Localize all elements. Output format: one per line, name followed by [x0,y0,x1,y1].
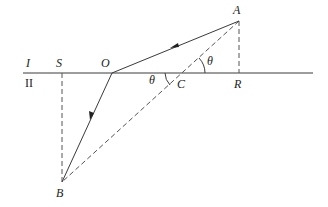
label-B: B [56,186,64,200]
refraction-diagram: A O S I II C R B θ θ [0,0,328,207]
angle-arc-left [165,73,170,85]
label-S: S [56,56,62,70]
label-theta-right: θ [207,54,213,68]
angle-arc-right [199,58,205,73]
dashed-line-AB [62,21,239,182]
label-theta-left: θ [149,73,155,87]
arrowhead-icon [170,43,179,48]
label-A: A [232,3,241,17]
label-medium-I: I [25,56,31,70]
label-R: R [233,77,242,91]
ray-O-to-B [62,73,112,182]
label-O: O [101,56,110,70]
label-C: C [177,77,186,91]
label-medium-II: II [25,76,33,90]
